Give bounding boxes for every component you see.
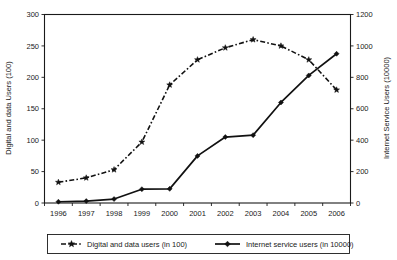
left-axis-tick-label: 250 (26, 42, 39, 51)
right-axis-tick-label: 1000 (356, 42, 373, 51)
right-axis-tick-label: 600 (356, 104, 369, 113)
x-axis-tick-label: 1996 (50, 209, 67, 218)
left-axis-tick-label: 50 (31, 167, 39, 176)
left-axis-tick-label: 300 (26, 10, 39, 19)
x-axis-tick-label: 2004 (273, 209, 290, 218)
left-axis-tick-label: 0 (35, 199, 39, 208)
legend-label-internet-service-users: Internet service users (in 10000) (246, 240, 354, 249)
left-axis-tick-label: 150 (26, 104, 39, 113)
x-axis-tick-label: 2001 (189, 209, 206, 218)
right-axis-tick-label: 800 (356, 73, 369, 82)
x-axis-tick-label: 1997 (78, 209, 95, 218)
x-axis-tick-label: 1998 (106, 209, 123, 218)
chart-legend: Digital and data users (in 100) Internet… (48, 235, 355, 254)
chart-background (0, 0, 397, 260)
x-axis-tick-label: 1999 (134, 209, 151, 218)
legend-label-digital-and-data-users: Digital and data users (in 100) (87, 240, 188, 249)
x-axis-tick-label: 2000 (161, 209, 178, 218)
left-axis-title: Digital and data Users (100) (4, 61, 13, 155)
right-axis-tick-label: 1200 (356, 10, 373, 19)
right-axis-tick-label: 0 (356, 199, 360, 208)
right-axis-tick-label: 400 (356, 136, 369, 145)
x-axis-tick-label: 2005 (300, 209, 317, 218)
left-axis-tick-label: 100 (26, 136, 39, 145)
chart-container: 050100150200250300 020040060080010001200… (0, 0, 397, 260)
x-axis-tick-label: 2003 (245, 209, 262, 218)
x-axis-tick-label: 2006 (328, 209, 345, 218)
x-axis-tick-label: 2002 (217, 209, 234, 218)
x-axis-tick-labels: 1996199719981999200020012002200320042005… (50, 209, 345, 218)
right-axis-title: Internet Service Users (10000) (382, 56, 391, 159)
dual-axis-line-chart: 050100150200250300 020040060080010001200… (0, 0, 397, 260)
left-axis-tick-label: 200 (26, 73, 39, 82)
right-axis-tick-label: 200 (356, 167, 369, 176)
